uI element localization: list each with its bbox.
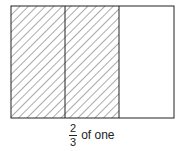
fraction-denominator: 3 (70, 136, 76, 148)
unshaded-part-3 (119, 6, 174, 118)
fraction: 2 3 (69, 123, 77, 148)
fraction-caption: 2 3 of one (69, 120, 115, 150)
caption-text: of one (81, 128, 114, 142)
shaded-part-2 (65, 6, 119, 118)
shaded-part-1 (11, 6, 65, 118)
fraction-numerator: 2 (69, 123, 77, 136)
